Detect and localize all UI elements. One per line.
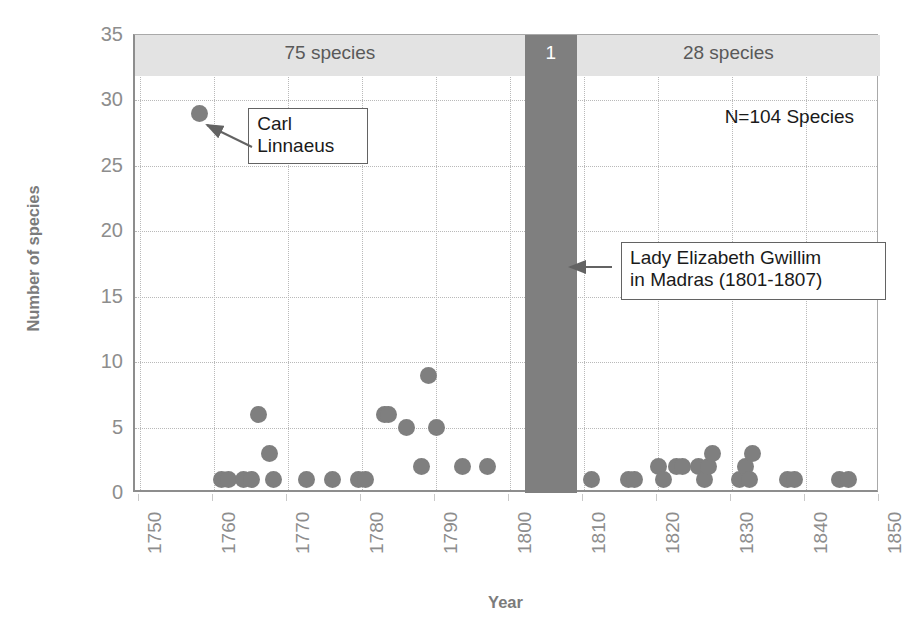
data-point xyxy=(261,445,278,462)
y-tick-label: 20 xyxy=(81,220,123,240)
x-tick-label: 1840 xyxy=(811,512,830,554)
data-point xyxy=(840,471,857,488)
data-point xyxy=(243,471,260,488)
data-point xyxy=(744,445,761,462)
x-tick-label: 1770 xyxy=(293,512,312,554)
data-point xyxy=(298,471,315,488)
data-point xyxy=(357,471,374,488)
x-tick-label: 1790 xyxy=(441,512,460,554)
gridline-horizontal xyxy=(135,362,877,363)
data-point xyxy=(704,445,721,462)
x-tick-label: 1780 xyxy=(367,512,386,554)
data-point xyxy=(420,367,437,384)
data-point xyxy=(380,406,397,423)
x-axis-title: Year xyxy=(133,593,878,612)
x-tick-mark xyxy=(286,494,287,501)
data-point xyxy=(250,406,267,423)
y-tick-label: 5 xyxy=(81,417,123,437)
x-tick-mark xyxy=(582,494,583,501)
x-tick-mark xyxy=(212,494,213,501)
x-tick-mark xyxy=(656,494,657,501)
x-tick-mark xyxy=(508,494,509,501)
data-point xyxy=(191,105,208,122)
data-point xyxy=(583,471,600,488)
x-tick-label: 1800 xyxy=(515,512,534,554)
y-axis-title: Number of species xyxy=(24,159,43,359)
gridline-vertical xyxy=(362,35,363,490)
data-point xyxy=(479,458,496,475)
gridline-vertical xyxy=(214,35,215,490)
x-tick-mark xyxy=(878,494,879,501)
scatter-chart: Number of species Year 05101520253035 17… xyxy=(0,0,915,642)
y-tick-label: 10 xyxy=(81,351,123,371)
data-point xyxy=(454,458,471,475)
data-point xyxy=(741,471,758,488)
data-point xyxy=(428,419,445,436)
y-tick-label: 35 xyxy=(81,24,123,44)
x-tick-label: 1810 xyxy=(589,512,608,554)
period-band-label-middle: 1 xyxy=(525,43,577,62)
period-band-label-left: 75 species xyxy=(135,43,525,62)
x-tick-label: 1820 xyxy=(663,512,682,554)
x-tick-label: 1850 xyxy=(885,512,904,554)
x-tick-mark xyxy=(360,494,361,501)
y-tick-label: 0 xyxy=(81,482,123,502)
gridline-vertical xyxy=(288,35,289,490)
gridline-vertical xyxy=(584,35,585,490)
data-point xyxy=(324,471,341,488)
data-point xyxy=(398,419,415,436)
gridline-vertical xyxy=(510,35,511,490)
gridline-horizontal xyxy=(135,166,877,167)
y-tick-label: 30 xyxy=(81,89,123,109)
data-point xyxy=(674,458,691,475)
y-tick-label: 25 xyxy=(81,155,123,175)
annotation-carl-linnaeus: Carl Linnaeus xyxy=(248,108,368,164)
data-point xyxy=(655,471,672,488)
period-band-middle xyxy=(525,35,577,493)
total-count-label: N=104 Species xyxy=(725,106,854,128)
gridline-vertical xyxy=(140,35,141,490)
gridline-horizontal xyxy=(135,100,877,101)
period-band-label-right: 28 species xyxy=(577,43,880,62)
x-tick-label: 1750 xyxy=(145,512,164,554)
gridline-horizontal xyxy=(135,428,877,429)
data-point xyxy=(413,458,430,475)
data-point xyxy=(626,471,643,488)
x-tick-mark xyxy=(730,494,731,501)
x-tick-mark xyxy=(804,494,805,501)
data-point xyxy=(786,471,803,488)
plot-area: 75 species128 species N=104 Species Carl… xyxy=(133,34,878,492)
x-tick-label: 1830 xyxy=(737,512,756,554)
x-tick-mark xyxy=(138,494,139,501)
gridline-horizontal xyxy=(135,231,877,232)
annotation-lady-gwillim: Lady Elizabeth Gwillim in Madras (1801-1… xyxy=(621,242,886,300)
data-point xyxy=(265,471,282,488)
x-tick-mark xyxy=(434,494,435,501)
x-tick-label: 1760 xyxy=(219,512,238,554)
y-tick-label: 15 xyxy=(81,286,123,306)
